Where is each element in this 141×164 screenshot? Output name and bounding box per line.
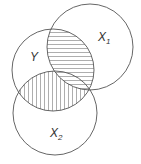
label-x2: X2 xyxy=(49,126,63,142)
label-y: Y xyxy=(30,50,39,64)
venn-diagram: Y X1 X2 xyxy=(0,0,141,164)
label-x1: X1 xyxy=(97,30,110,46)
